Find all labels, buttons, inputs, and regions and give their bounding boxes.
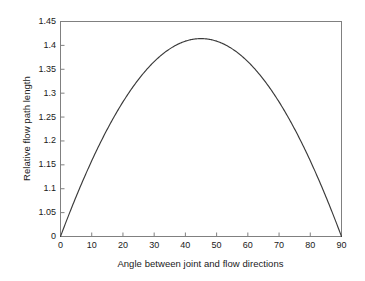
chart-figure: 01.051.11.151.21.251.31.351.41.45 010203… bbox=[0, 0, 365, 281]
x-axis-title: Angle between joint and flow directions bbox=[60, 258, 341, 269]
x-tick-label: 60 bbox=[236, 241, 260, 250]
x-tick-label: 30 bbox=[142, 241, 166, 250]
x-tick-label: 0 bbox=[49, 241, 73, 250]
x-tick-label: 70 bbox=[267, 241, 291, 250]
x-tick-label: 40 bbox=[173, 241, 197, 250]
x-tick-label: 10 bbox=[80, 241, 104, 250]
plot-frame bbox=[61, 22, 342, 237]
y-axis-title: Relative flow path length bbox=[20, 21, 34, 236]
x-tick-label: 50 bbox=[205, 241, 229, 250]
x-tick-label: 20 bbox=[111, 241, 135, 250]
x-tick-label: 80 bbox=[298, 241, 322, 250]
x-tick-label: 90 bbox=[330, 241, 354, 250]
